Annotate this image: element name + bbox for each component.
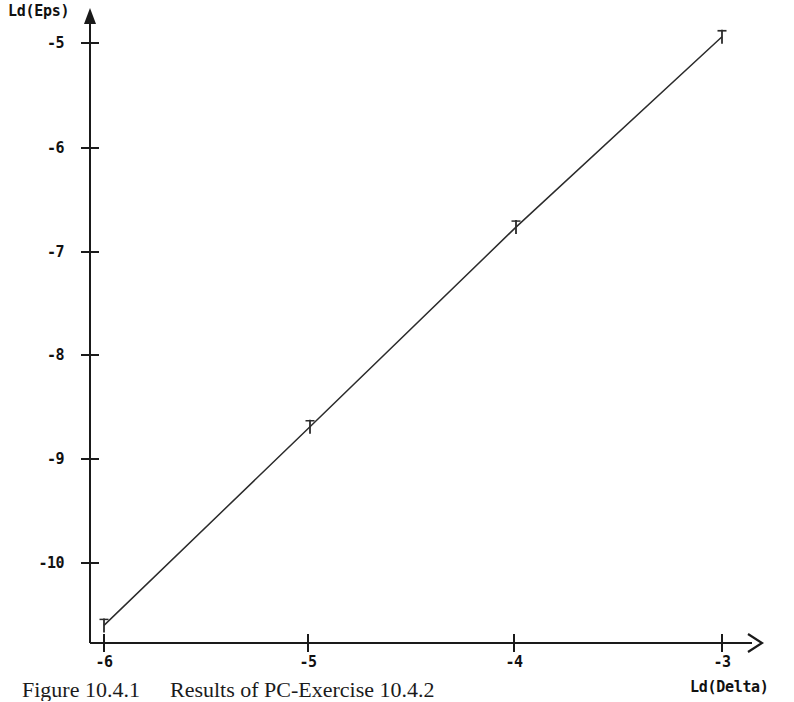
data-series-line [104,37,722,626]
data-point-marker [306,420,315,434]
y-tick-label--10: -10 [6,556,64,571]
x-tick-label--5: -5 [288,655,328,670]
figure-caption-text: Results of PC-Exercise 10.4.2 [170,678,435,701]
figure-caption-number: Figure 10.4.1 [22,678,140,701]
x-axis-title: Ld(Delta) [690,680,769,695]
x-tick-label--6: -6 [84,655,124,670]
y-tick-label--8: -8 [16,348,64,363]
figure-container: -5 -6 -7 -8 -9 -10 -6 -5 -4 -3 Ld(Eps) L… [0,0,794,702]
y-axis-arrow-icon [84,8,96,24]
x-tick-label--3: -3 [702,655,742,670]
data-point-marker [718,30,727,44]
y-tick-label--5: -5 [16,36,64,51]
y-tick-label--6: -6 [16,141,64,156]
x-tick-label--4: -4 [494,655,534,670]
figure-caption: Figure 10.4.1Results of PC-Exercise 10.4… [22,678,582,701]
y-tick-label--7: -7 [16,245,64,260]
y-axis-title: Ld(Eps) [8,4,69,19]
plot-area [0,0,794,702]
data-point-marker [100,618,109,632]
data-point-marker [512,220,521,234]
y-tick-label--9: -9 [16,452,64,467]
